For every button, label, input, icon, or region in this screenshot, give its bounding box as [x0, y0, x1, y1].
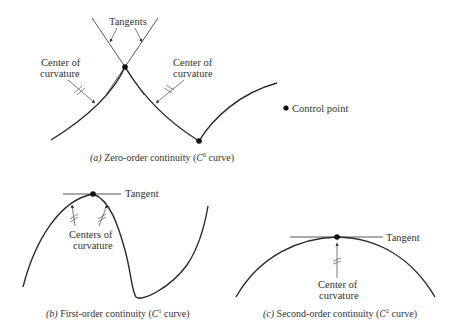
tangents-leader-left	[110, 28, 117, 42]
caption-c: (c) Second-order continuity (C2 curve)	[263, 308, 417, 320]
center-label-1: Center of	[318, 279, 358, 290]
right-center-label-1: Center of	[173, 57, 213, 68]
legend-dot-icon	[283, 105, 288, 110]
control-point-cusp	[196, 138, 202, 144]
right-break-symbol	[164, 85, 174, 93]
caption-b: (b) First-order continuity (C1 curve)	[46, 308, 190, 320]
control-point-joint	[122, 64, 128, 70]
panel-c-second-order: Tangent Center of curvature (c) Second-o…	[236, 232, 435, 320]
control-point-c	[334, 234, 340, 240]
tangent-label: Tangent	[125, 188, 159, 199]
tangent-label: Tangent	[386, 232, 420, 243]
continuity-diagram: Tangents Center of curvature Center of c…	[0, 0, 462, 331]
left-break-symbol	[74, 86, 85, 95]
tangent-line-right	[106, 18, 158, 95]
curve-segment-right	[199, 83, 277, 141]
tangents-label: Tangents	[109, 16, 147, 27]
centers-label-2: curvature	[73, 240, 113, 251]
right-center-label-2: curvature	[173, 68, 213, 79]
curve-b	[23, 194, 208, 298]
left-center-label-2: curvature	[40, 68, 80, 79]
panel-a-zero-order: Tangents Center of curvature Center of c…	[40, 16, 277, 164]
center-label-2: curvature	[319, 290, 359, 301]
left-center-label-1: Center of	[41, 57, 81, 68]
panel-b-first-order: Tangent Centers of curvature (b) First-o…	[23, 188, 208, 320]
legend-label: Control point	[292, 103, 348, 114]
center-leader-left	[72, 205, 75, 226]
control-point-b	[90, 191, 96, 197]
centers-label-1: Centers of	[69, 229, 113, 240]
tangents-leader-right	[135, 28, 142, 42]
caption-a: (a) Zero-order continuity (C0 curve)	[90, 152, 234, 164]
legend-control-point: Control point	[283, 103, 348, 114]
